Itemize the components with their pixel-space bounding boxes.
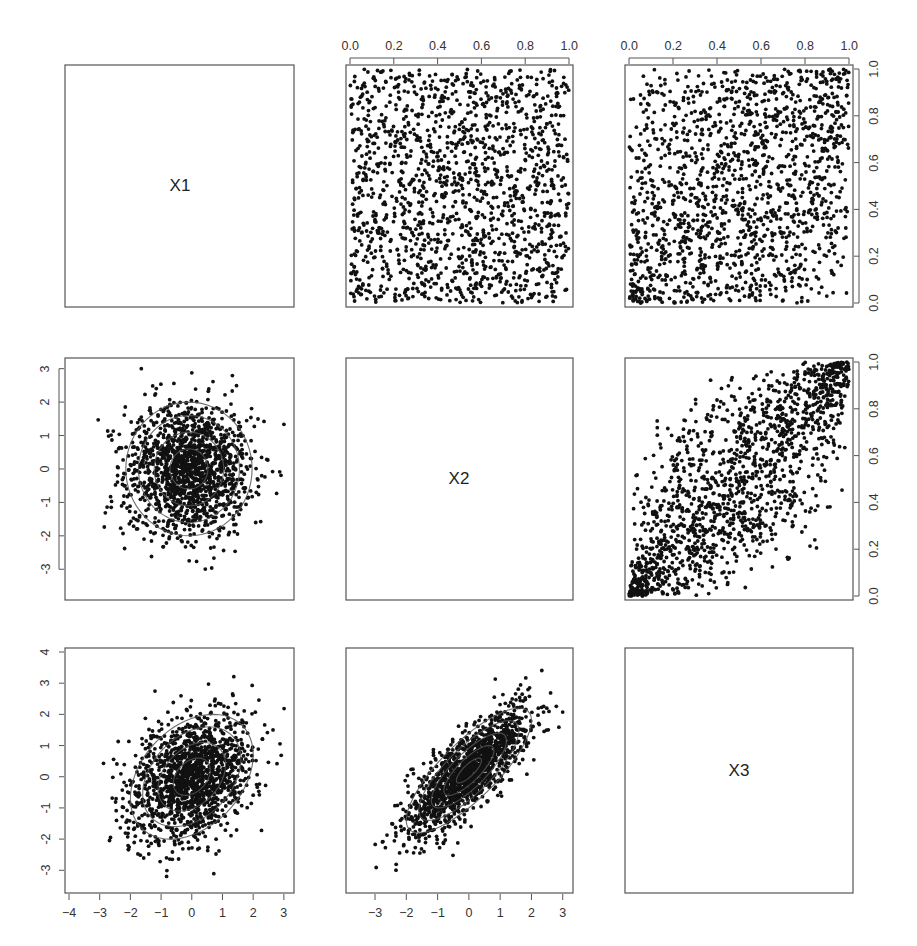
bottom-tick-label: 3 — [559, 906, 566, 920]
top-tick-label: 0.2 — [385, 39, 402, 53]
left-tick-label: -2 — [38, 834, 52, 845]
top-tick-label: 0.2 — [665, 39, 682, 53]
bottom-tick-label: −1 — [154, 906, 168, 920]
left-tick-label: -1 — [38, 802, 52, 813]
bottom-tick-label: −2 — [399, 906, 413, 920]
right-tick-label: 0.8 — [866, 400, 880, 417]
top-tick-label: 0.4 — [429, 39, 446, 53]
right-tick-label: 0.4 — [866, 201, 880, 218]
left-tick-label: 3 — [38, 680, 52, 687]
left-tick-label: 0 — [38, 773, 52, 780]
diagonal-label-x1: X1 — [170, 176, 191, 196]
left-tick-label: 0 — [38, 465, 52, 472]
top-tick-label: 0.6 — [753, 39, 770, 53]
right-tick-label: 1.0 — [866, 353, 880, 370]
bottom-tick-label: 1 — [497, 906, 504, 920]
top-tick-label: 0.0 — [621, 39, 638, 53]
left-tick-label: -3 — [38, 865, 52, 876]
top-tick-label: 0.0 — [342, 39, 359, 53]
top-tick-label: 0.8 — [797, 39, 814, 53]
right-tick-label: 0.4 — [866, 494, 880, 511]
top-tick-label: 0.4 — [709, 39, 726, 53]
top-tick-label: 0.8 — [517, 39, 534, 53]
top-tick-label: 0.6 — [473, 39, 490, 53]
left-tick-label: -1 — [38, 497, 52, 508]
right-tick-label: 0.8 — [866, 107, 880, 124]
bottom-tick-label: −1 — [431, 906, 445, 920]
bottom-tick-label: 2 — [250, 906, 257, 920]
right-tick-label: 0.6 — [866, 154, 880, 171]
left-tick-label: 1 — [38, 742, 52, 749]
right-tick-label: 0.2 — [866, 247, 880, 264]
bottom-tick-label: 1 — [219, 906, 226, 920]
left-tick-label: 2 — [38, 711, 52, 718]
bottom-tick-label: −3 — [93, 906, 107, 920]
left-tick-label: -2 — [38, 530, 52, 541]
right-tick-label: 1.0 — [866, 60, 880, 77]
bottom-tick-label: 0 — [465, 906, 472, 920]
bottom-tick-label: −3 — [368, 906, 382, 920]
right-tick-label: 0.0 — [866, 587, 880, 604]
left-tick-label: 1 — [38, 432, 52, 439]
diagonal-label-x2: X2 — [449, 469, 470, 489]
bottom-tick-label: −4 — [62, 906, 76, 920]
right-tick-label: 0.6 — [866, 447, 880, 464]
right-tick-label: 0.2 — [866, 540, 880, 557]
top-tick-label: 1.0 — [841, 39, 858, 53]
bottom-tick-label: −2 — [123, 906, 137, 920]
left-tick-label: -3 — [38, 564, 52, 575]
bottom-tick-label: 0 — [188, 906, 195, 920]
left-tick-label: 4 — [38, 649, 52, 656]
right-tick-label: 0.0 — [866, 294, 880, 311]
bottom-tick-label: 2 — [528, 906, 535, 920]
diagonal-label-x3: X3 — [729, 761, 750, 781]
bottom-tick-label: 3 — [280, 906, 287, 920]
left-tick-label: 3 — [38, 365, 52, 372]
top-tick-label: 1.0 — [561, 39, 578, 53]
left-tick-label: 2 — [38, 399, 52, 406]
